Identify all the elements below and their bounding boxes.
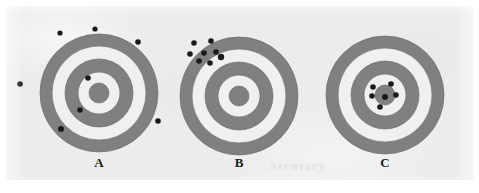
target-c-shot-6 [377,104,383,110]
target-b-shot-6 [196,58,202,64]
target-label-c: C [370,155,400,171]
target-c-shot-2 [388,81,394,87]
target-b-shot-8 [218,54,224,60]
target-b-shot-7 [207,60,213,66]
target-b-shot-3 [187,51,193,57]
target-a [17,26,161,152]
target-a-bullseye [89,83,109,103]
target-b-shot-4 [201,50,207,56]
target-a-shot-3 [135,39,141,45]
target-c-shot-4 [382,94,388,100]
target-a-shot-2 [92,26,97,31]
target-a-shot-1 [57,30,62,35]
target-a-shot-8 [155,118,161,124]
target-c-shot-3 [369,93,375,99]
target-c-shot-1 [370,84,376,90]
target-label-b: B [224,155,254,171]
target-a-shot-5 [85,75,91,81]
target-c-shot-5 [393,92,399,98]
target-a-shot-4 [17,81,23,87]
target-b-shot-2 [208,38,214,44]
target-c [326,36,444,154]
target-b-shot-5 [213,49,219,55]
target-b-bullseye [229,86,249,106]
target-a-shot-7 [58,126,64,132]
target-a-shot-6 [77,107,83,113]
target-b [180,37,298,155]
targets-figure: Accuracy A B C [0,0,479,193]
target-label-a: A [84,155,114,171]
target-b-shot-1 [191,40,197,46]
